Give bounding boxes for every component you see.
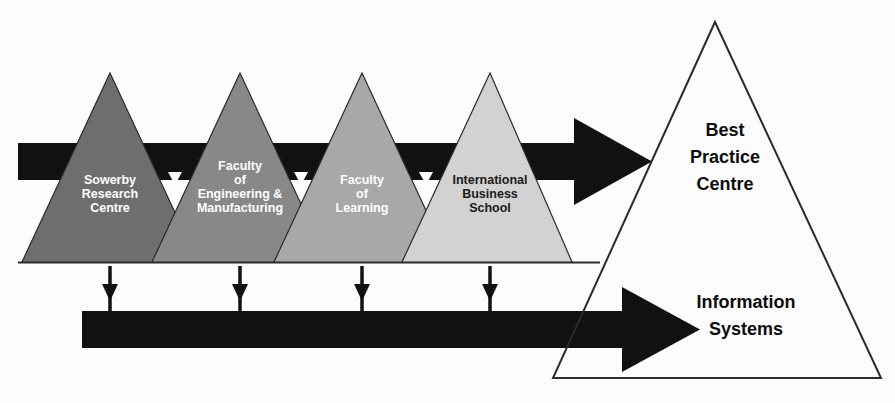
information-systems-line-2: Systems [709, 319, 783, 339]
unit-label-faculty-of-learning-line-1: Faculty [340, 173, 384, 187]
unit-label-faculty-of-learning-line-3: Learning [336, 201, 389, 215]
information-systems-flow-arrow [82, 287, 700, 372]
drop-arrow-2 [232, 266, 248, 316]
drop-arrow-4 [482, 266, 498, 316]
information-systems-flow-arrow-shape [82, 287, 700, 372]
unit-label-sowerby-research-centre-line-3: Centre [90, 201, 130, 215]
drop-arrows [102, 266, 498, 316]
diagram-svg: SowerbyResearchCentreFacultyofEngineerin… [0, 0, 895, 403]
drop-arrow-4-head [482, 284, 498, 301]
drop-arrow-2-head [232, 284, 248, 301]
unit-label-faculty-of-engineering-and-manufacturing-line-2: of [234, 173, 247, 187]
drop-arrow-3-head [354, 284, 370, 301]
unit-label-faculty-of-learning-line-2: of [356, 187, 369, 201]
unit-label-faculty-of-engineering-and-manufacturing-line-4: Manufacturing [197, 201, 283, 215]
drop-arrow-1 [102, 266, 118, 316]
best-practice-centre-line-3: Centre [696, 174, 753, 194]
unit-label-faculty-of-engineering-and-manufacturing-line-1: Faculty [218, 159, 262, 173]
unit-label-faculty-of-engineering-and-manufacturing-line-3: Engineering & [198, 187, 283, 201]
drop-arrow-1-head [102, 284, 118, 301]
unit-label-international-business-school-line-3: School [469, 201, 511, 215]
drop-arrow-3 [354, 266, 370, 316]
unit-label-international-business-school-line-1: International [452, 173, 527, 187]
diagram-canvas: SowerbyResearchCentreFacultyofEngineerin… [0, 0, 895, 403]
best-practice-centre-labels: Best Practice Centre Information Systems [690, 120, 796, 339]
unit-label-sowerby-research-centre-line-1: Sowerby [84, 173, 136, 187]
information-systems-line-1: Information [697, 292, 796, 312]
best-practice-centre-line-1: Best [705, 120, 744, 140]
unit-label-international-business-school-line-2: Business [462, 187, 518, 201]
best-practice-centre-line-2: Practice [690, 147, 760, 167]
unit-label-sowerby-research-centre-line-2: Research [82, 187, 138, 201]
